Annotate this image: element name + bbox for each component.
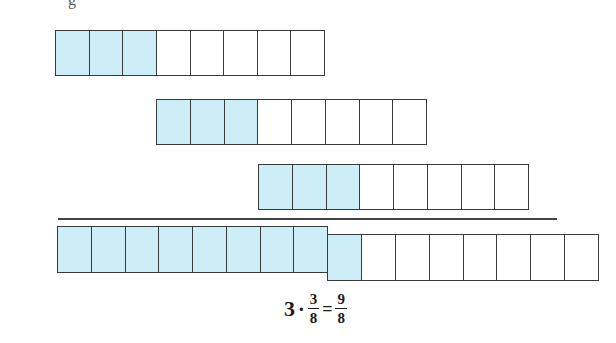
fraction-bar-3 — [258, 164, 529, 210]
bar-cell-empty — [362, 235, 396, 280]
bar-cell-empty — [258, 100, 292, 144]
bar-cell-filled — [159, 227, 193, 272]
bar-cell-empty — [191, 31, 225, 75]
result-numerator: 9 — [335, 292, 347, 309]
bar-cell-empty — [224, 31, 258, 75]
bar-cell-empty — [326, 100, 360, 144]
bar-cell-filled — [92, 227, 126, 272]
bar-cell-empty — [495, 165, 528, 209]
bar-cell-empty — [464, 235, 498, 280]
formula-result-fraction: 9 8 — [335, 292, 347, 326]
bar-cell-empty — [157, 31, 191, 75]
bar-cell-filled — [56, 31, 90, 75]
bar-cell-empty — [258, 31, 292, 75]
bar-cell-filled — [191, 100, 225, 144]
bar-cell-empty — [396, 235, 430, 280]
bar-cell-filled — [259, 165, 293, 209]
formula-operator: · — [298, 299, 305, 319]
bar-cell-filled — [123, 31, 157, 75]
formula-equals: = — [322, 300, 332, 318]
sum-divider-line — [58, 218, 557, 220]
bar-cell-empty — [393, 100, 426, 144]
bar-cell-empty — [360, 100, 394, 144]
bar-cell-filled — [193, 227, 227, 272]
bar-cell-filled — [261, 227, 295, 272]
bar-cell-filled — [327, 165, 361, 209]
bar-cell-filled — [293, 165, 327, 209]
bar-cell-empty — [394, 165, 428, 209]
bar-cell-empty — [531, 235, 565, 280]
fraction-denominator: 8 — [310, 309, 318, 326]
bar-cell-filled — [225, 100, 259, 144]
bar-cell-filled — [328, 235, 362, 280]
multiplication-formula: 3 · 3 8 = 9 8 — [284, 292, 347, 326]
formula-fraction: 3 8 — [308, 292, 320, 326]
bar-cell-filled — [126, 227, 160, 272]
bar-cell-empty — [291, 31, 324, 75]
bar-cell-empty — [360, 165, 394, 209]
bar-cell-empty — [497, 235, 531, 280]
bar-cell-filled — [294, 227, 327, 272]
formula-multiplier: 3 — [284, 298, 295, 320]
fraction-bar-1 — [55, 30, 325, 76]
bar-cell-empty — [430, 235, 464, 280]
bar-cell-filled — [157, 100, 191, 144]
result-partial-bar — [327, 234, 599, 281]
caption-fragment: g — [68, 0, 76, 9]
result-whole-bar — [57, 226, 328, 273]
bar-cell-filled — [58, 227, 92, 272]
bar-cell-filled — [227, 227, 261, 272]
bar-cell-empty — [565, 235, 598, 280]
bar-cell-filled — [90, 31, 124, 75]
fraction-bar-2 — [156, 99, 427, 145]
fraction-numerator: 3 — [308, 292, 320, 309]
bar-cell-empty — [292, 100, 326, 144]
result-denominator: 8 — [337, 309, 345, 326]
bar-cell-empty — [462, 165, 496, 209]
bar-cell-empty — [428, 165, 462, 209]
